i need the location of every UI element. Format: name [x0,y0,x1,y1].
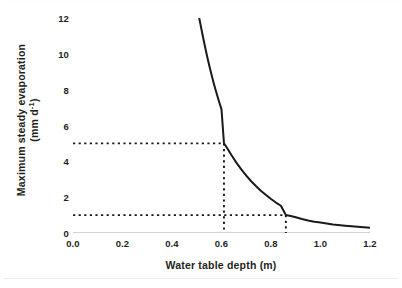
x-axis-tick-label: 1.2 [350,238,390,249]
x-axis-tick-label: 0.2 [103,238,143,249]
y-axis-tick-label: 12 [47,13,69,24]
x-axis-tick-label: 1.0 [301,238,341,249]
figure-container: Maximum steady evaporation (mm d-1) 0246… [0,0,402,288]
y-axis-tick-label: 6 [47,120,69,131]
x-axis-tick-label: 0.0 [53,238,93,249]
x-axis-tick-label: 0.8 [251,238,291,249]
y-axis-tick-label: 0 [47,228,69,239]
y-axis-title-unit-post: ) [28,98,40,102]
data-series-line [199,18,370,228]
y-axis-tick-label: 2 [47,192,69,203]
y-axis-title-line1: Maximum steady evaporation [15,44,27,196]
x-axis-tick-label: 0.6 [202,238,242,249]
y-axis-tick-label: 4 [47,156,69,167]
x-axis-tick-label: 0.4 [152,238,192,249]
guide-line-group [73,143,286,233]
y-axis-tick-label: 10 [47,48,69,59]
y-axis-title-line2: (mm d-1) [28,44,41,196]
x-axis-tick-labels: 0.00.20.40.60.81.01.2 [0,238,402,254]
y-axis-title: Maximum steady evaporation (mm d-1) [15,44,41,196]
y-axis-title-unit-exponent: -1 [27,102,36,109]
scan-artifact-bottom [4,278,398,279]
y-axis-tick-label: 8 [47,84,69,95]
y-axis-title-unit-pre: (mm d [28,109,40,142]
x-axis-title: Water table depth (m) [56,259,386,271]
chart-svg [73,18,370,233]
plot-area [73,18,370,233]
